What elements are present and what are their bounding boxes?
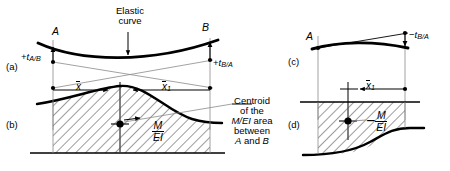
x-bar-1-symbol: x (162, 81, 167, 92)
deviation-label-t-ab: +tA/B (21, 52, 41, 63)
x-bar-symbol: x (76, 81, 81, 92)
deviation-label-t-ba-right: −tB/A (409, 30, 429, 41)
deviation-subscript-ba-left: B/A (221, 60, 233, 69)
tangent-point-b-right (403, 31, 407, 35)
point-label-b: B (202, 22, 209, 33)
dimension-label-x-bar-1: x1 (162, 82, 171, 93)
deviation-subscript-ba-right: B/A (417, 32, 429, 41)
point-label-a-right: A (306, 31, 313, 42)
tangent-point-a (51, 60, 55, 64)
elastic-curve-line2: curve (118, 15, 141, 26)
moment-area-figure: Elastic curve A B +tA/B +tB/A (a) (b) (c… (0, 0, 450, 171)
m-ei-numerator-left: M (152, 120, 164, 131)
elastic-curve-c (312, 43, 408, 49)
m-ei-denominator-left: EI (152, 131, 164, 143)
panel-label-c: (c) (288, 57, 299, 67)
centroid-and-text: and (241, 135, 262, 146)
x-bar-1-subscript: 1 (167, 84, 171, 93)
deviation-label-t-ba-left: +tB/A (213, 58, 233, 69)
panel-label-a: (a) (6, 62, 18, 72)
m-ei-numerator-right: M (375, 110, 387, 121)
tangent-point-a-lower (51, 86, 55, 90)
panel-d-graphics (300, 102, 424, 155)
tangent-point-b-lower (208, 86, 212, 90)
m-ei-sign-right: − (366, 113, 375, 130)
dimension-label-x-bar-1-right: x1 (366, 81, 375, 92)
x-bar-1-overbar: x (162, 82, 167, 93)
m-ei-fraction-left: M EI (152, 120, 164, 142)
tangent-point-a-right (316, 46, 320, 50)
x-bar-1-overbar-right: x (366, 81, 371, 92)
tangent-point-b (208, 58, 212, 62)
x-bar-overbar: x (76, 82, 81, 93)
centroid-point-b: B (263, 135, 269, 146)
m-ei-label-left: M EI (152, 118, 164, 142)
m-ei-fraction-right: − M EI (366, 110, 387, 132)
elastic-curve-annotation: Elastic curve (100, 6, 160, 26)
m-ei-frac-right: M EI (375, 110, 387, 132)
x-bar-1-symbol-right: x (366, 80, 371, 91)
m-ei-label-right: − M EI (366, 110, 387, 132)
centroid-annotation: Centroid of the M/EI area between A and … (213, 96, 291, 146)
point-label-a: A (52, 26, 59, 37)
m-ei-frac-left: M EI (152, 120, 164, 142)
dimension-label-x-bar: x (76, 82, 81, 93)
x-bar-1-subscript-right: 1 (371, 83, 375, 92)
deviation-subscript-ab: A/B (29, 54, 41, 63)
panel-label-b: (b) (6, 120, 18, 130)
m-ei-denominator-right: EI (375, 121, 387, 133)
